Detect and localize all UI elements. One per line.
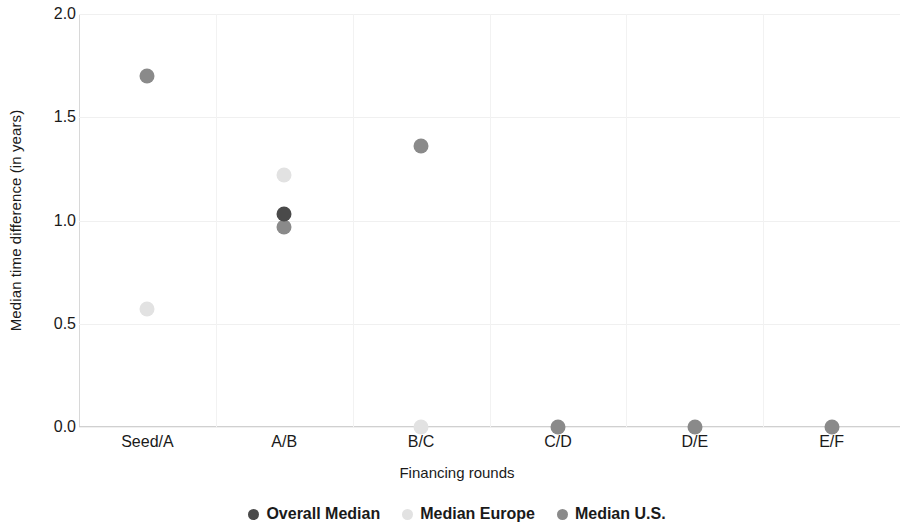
y-axis-tick-label: 1.5 xyxy=(30,109,76,125)
data-point xyxy=(414,139,429,154)
data-point xyxy=(277,207,292,222)
x-axis-tick-labels: Seed/AA/BB/CC/DD/EE/F xyxy=(79,432,900,456)
y-axis-title-text: Median time difference (in years) xyxy=(8,109,25,330)
y-axis-tick-label: 0.5 xyxy=(30,316,76,332)
gridline-vertical xyxy=(626,14,627,427)
data-point xyxy=(277,168,292,183)
legend-label: Median Europe xyxy=(420,505,535,523)
data-point xyxy=(140,68,155,83)
gridline-vertical xyxy=(490,14,491,427)
legend-label: Overall Median xyxy=(266,505,380,523)
x-axis-tick-label: B/C xyxy=(408,432,435,451)
legend-item[interactable]: Overall Median xyxy=(248,505,380,523)
legend-item[interactable]: Median U.S. xyxy=(557,505,666,523)
legend-label: Median U.S. xyxy=(575,505,666,523)
data-point xyxy=(140,302,155,317)
legend-marker-icon xyxy=(402,509,413,520)
x-axis-tick-label: C/D xyxy=(544,432,572,451)
x-axis-tick-label: D/E xyxy=(681,432,708,451)
y-axis-tick-label: 2.0 xyxy=(30,6,76,22)
plot-area xyxy=(79,14,900,427)
x-axis-tick-label: Seed/A xyxy=(121,432,173,451)
gridline-horizontal xyxy=(79,427,900,428)
y-axis-tick-label: 1.0 xyxy=(30,213,76,229)
legend-item[interactable]: Median Europe xyxy=(402,505,535,523)
y-axis-tick-label: 0.0 xyxy=(30,419,76,435)
y-axis-tick-labels: 0.00.51.01.52.0 xyxy=(24,0,76,532)
legend-marker-icon xyxy=(248,509,259,520)
scatter-chart: Median time difference (in years) 0.00.5… xyxy=(0,0,914,532)
chart-legend: Overall MedianMedian EuropeMedian U.S. xyxy=(0,505,914,523)
x-axis-tick-label: E/F xyxy=(819,432,844,451)
x-axis-title-text: Financing rounds xyxy=(399,464,514,481)
x-axis-title: Financing rounds xyxy=(0,464,914,481)
gridline-vertical xyxy=(353,14,354,427)
gridline-vertical xyxy=(216,14,217,427)
legend-marker-icon xyxy=(557,509,568,520)
x-axis-tick-label: A/B xyxy=(271,432,297,451)
gridline-vertical xyxy=(763,14,764,427)
